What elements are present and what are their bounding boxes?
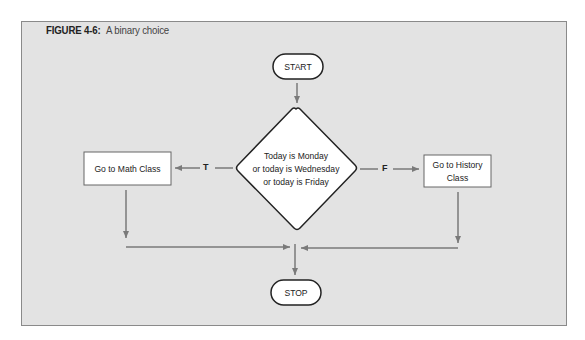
decision-line-1: Today is Monday (264, 149, 328, 162)
true-edge-label: T (203, 162, 209, 172)
start-label: START (276, 54, 321, 79)
false-edge-label: F (382, 163, 388, 173)
history-class-label: Go to History Class (427, 155, 487, 187)
decision-line-3: or today is Friday (263, 175, 329, 188)
decision-label: Today is Monday or today is Wednesday or… (246, 146, 347, 190)
stop-label: STOP (274, 280, 319, 305)
history-line-2: Class (447, 171, 468, 184)
decision-line-2: or today is Wednesday (253, 162, 340, 175)
history-line-1: Go to History (433, 158, 483, 171)
math-class-label: Go to Math Class (88, 152, 166, 185)
